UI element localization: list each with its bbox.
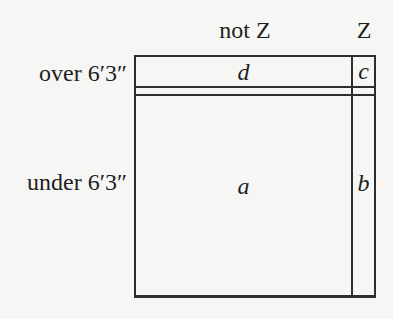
- row-label-over-6ft3: over 6′3″: [0, 60, 127, 86]
- row-label-under-6ft3: under 6′3″: [0, 169, 127, 195]
- row-divider-line-upper: [136, 86, 374, 88]
- unit-square: d c a b: [134, 55, 376, 298]
- row-divider-line-lower: [136, 94, 374, 96]
- column-header-z: Z: [334, 17, 393, 43]
- cell-b-under-z: b: [353, 170, 374, 196]
- cell-d-over-not-z: d: [136, 59, 351, 85]
- column-header-not-z: not Z: [185, 17, 305, 43]
- probability-square-diagram: not Z Z over 6′3″ under 6′3″ d c a b: [0, 0, 393, 319]
- cell-c-over-z: c: [353, 58, 374, 84]
- cell-a-under-not-z: a: [136, 173, 351, 199]
